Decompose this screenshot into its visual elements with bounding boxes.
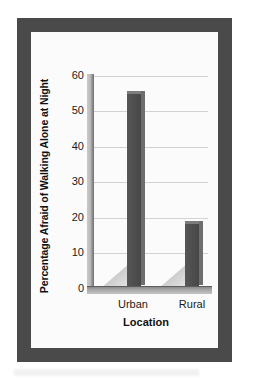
bar-rural[interactable] bbox=[185, 224, 202, 288]
x-tick-label-urban: Urban bbox=[103, 298, 163, 310]
x-axis-floor bbox=[87, 287, 212, 294]
bar-chart: 60 50 40 30 20 10 0 Percentage Afraid of… bbox=[31, 32, 218, 348]
bar-urban[interactable] bbox=[127, 94, 144, 288]
x-tick-label-rural: Rural bbox=[162, 298, 222, 310]
bar-urban-front-face bbox=[127, 94, 141, 288]
x-axis-title: Location bbox=[71, 316, 221, 328]
scan-artifact bbox=[14, 369, 199, 376]
gridline-40 bbox=[93, 147, 208, 148]
bar-rural-side-face bbox=[199, 221, 203, 285]
scanned-page: 60 50 40 30 20 10 0 Percentage Afraid of… bbox=[0, 0, 263, 381]
bar-urban-side-face bbox=[141, 91, 145, 285]
bar-rural-front-face bbox=[185, 224, 199, 288]
gridline-30 bbox=[93, 182, 208, 183]
chart-plot-panel: 60 50 40 30 20 10 0 Percentage Afraid of… bbox=[31, 32, 218, 348]
chart-frame-border: 60 50 40 30 20 10 0 Percentage Afraid of… bbox=[17, 18, 232, 362]
gridline-50 bbox=[93, 111, 208, 112]
gridline-20 bbox=[93, 218, 208, 219]
gridline-60 bbox=[93, 76, 208, 77]
y-axis-title: Percentage Afraid of Walking Alone at Ni… bbox=[38, 70, 50, 302]
y-axis-wall bbox=[87, 74, 94, 292]
